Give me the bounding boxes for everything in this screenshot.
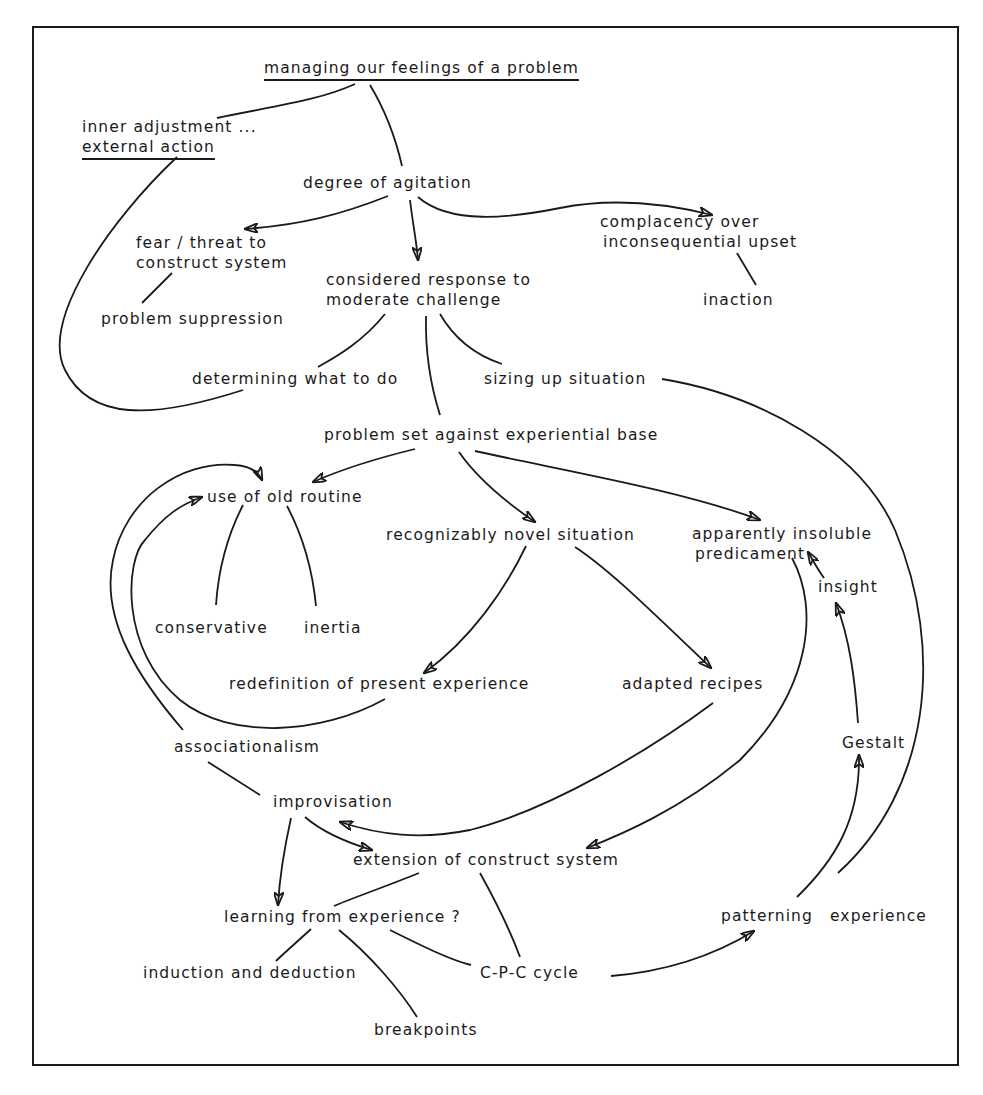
edge-considered-problemset (426, 316, 440, 415)
edge-gestalt-insight (836, 603, 858, 723)
edge-agitation-fear (245, 196, 388, 229)
edge-managing-agitation (370, 85, 402, 166)
node-learning-from-experience: learning from experience ? (224, 907, 461, 927)
edge-managing-inner (217, 84, 355, 118)
edge-learning-induction (276, 929, 311, 961)
edge-cpc-patterning (611, 931, 754, 976)
edge-insoluble-extension (587, 558, 807, 848)
node-adapted-recipes: adapted recipes (622, 674, 763, 694)
node-problem-suppression: problem suppression (101, 309, 284, 329)
node-fear-threat-line1: fear / threat to (136, 233, 287, 253)
node-inaction: inaction (703, 290, 774, 310)
node-conservative: conservative (155, 618, 268, 638)
node-patterning: patterning (721, 906, 813, 926)
edge-extension-cpc (480, 873, 520, 957)
edge-improvisation-learning (278, 818, 291, 905)
node-problem-set: problem set against experiential base (324, 425, 658, 445)
node-insoluble-line1: apparently insoluble (692, 524, 872, 544)
edge-associationalism-improvisation (208, 762, 260, 795)
node-extension-construct: extension of construct system (353, 850, 619, 870)
edge-sizing-experience (662, 379, 923, 873)
node-insoluble-line2: predicament (692, 544, 872, 564)
node-complacency-line1: complacency over (600, 212, 797, 232)
node-complacency-line2: inconsequential upset (600, 232, 797, 252)
edge-improvisation-extension (305, 817, 372, 850)
node-associationalism: associationalism (174, 737, 320, 757)
node-degree-of-agitation: degree of agitation (303, 173, 472, 193)
node-use-of-old-routine: use of old routine (207, 487, 363, 507)
node-insight: insight (818, 577, 878, 597)
node-redefinition: redefinition of present experience (229, 674, 529, 694)
node-fear-threat: fear / threat to construct system (136, 233, 287, 273)
edge-problemset-novel (459, 452, 535, 522)
node-determining: determining what to do (192, 369, 398, 389)
node-managing-feelings: managing our feelings of a problem (264, 58, 579, 78)
edge-oldroutine-inertia (287, 506, 316, 606)
node-breakpoints: breakpoints (374, 1020, 478, 1040)
node-improvisation: improvisation (273, 792, 393, 812)
edge-learning-cpc (390, 930, 471, 965)
edge-agitation-considered (410, 200, 418, 260)
node-novel-situation: recognizably novel situation (386, 525, 635, 545)
edge-complacency-inaction (737, 253, 756, 285)
node-gestalt: Gestalt (842, 733, 905, 753)
node-considered-line1: considered response to (326, 270, 531, 290)
node-fear-threat-line2: construct system (136, 253, 287, 273)
node-inner-adjustment: inner adjustment ... external action (82, 117, 257, 157)
edge-fear-suppression (142, 273, 172, 303)
node-inertia: inertia (304, 618, 362, 638)
node-inner-adjustment-line1: inner adjustment ... (82, 117, 257, 137)
node-insoluble-predicament: apparently insoluble predicament (692, 524, 872, 564)
node-external-action: external action (82, 137, 257, 157)
node-complacency: complacency over inconsequential upset (600, 212, 797, 252)
edge-extension-learning (334, 873, 419, 906)
node-experience: experience (830, 906, 927, 926)
node-considered-response: considered response to moderate challeng… (326, 270, 531, 310)
edge-novel-redefinition (424, 546, 526, 673)
node-induction-deduction: induction and deduction (143, 963, 357, 983)
edge-novel-recipes (575, 547, 711, 668)
edge-considered-determining (318, 314, 385, 367)
node-cpc-cycle: C-P-C cycle (480, 963, 579, 983)
edge-patterning-gestalt (797, 755, 859, 897)
edge-considered-sizing (440, 314, 502, 364)
edge-problemset-oldroutine (313, 449, 415, 482)
node-considered-line2: moderate challenge (326, 290, 531, 310)
edge-oldroutine-conservative (216, 505, 243, 605)
node-sizing-up: sizing up situation (484, 369, 646, 389)
